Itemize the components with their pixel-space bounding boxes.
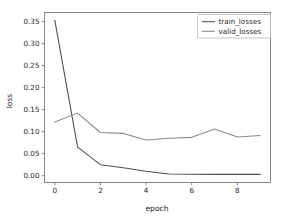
line-chart: 02468 0.000.050.100.150.200.250.300.35 e…: [0, 0, 286, 217]
y-tick-label: 0.10: [23, 127, 39, 136]
y-axis-title: loss: [5, 94, 14, 109]
y-tick-label: 0.15: [23, 105, 39, 114]
legend-label-train-losses: train_losses: [219, 17, 262, 26]
chart-legend: train_lossesvalid_losses: [198, 15, 271, 39]
y-tick-label: 0.20: [23, 83, 39, 92]
legend-label-valid-losses: valid_losses: [219, 27, 262, 36]
x-tick-label: 8: [235, 186, 240, 195]
y-tick-label: 0.35: [23, 17, 39, 26]
figure-canvas: 02468 0.000.050.100.150.200.250.300.35 e…: [0, 0, 286, 217]
y-tick-label: 0.05: [23, 149, 39, 158]
y-tick-label: 0.30: [23, 39, 39, 48]
x-tick-label: 4: [144, 186, 149, 195]
x-tick-label: 6: [189, 186, 194, 195]
x-axis-title: epoch: [145, 204, 168, 213]
y-tick-label: 0.00: [23, 171, 39, 180]
x-tick-label: 2: [98, 186, 103, 195]
x-tick-label: 0: [52, 186, 57, 195]
y-tick-label: 0.25: [23, 61, 39, 70]
